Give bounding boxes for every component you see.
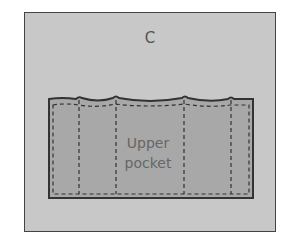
pocket-label: Upper pocket — [112, 133, 184, 173]
pocket-label-line1: Upper — [112, 133, 184, 153]
pocket-label-line2: pocket — [112, 153, 184, 173]
upper-pocket-shape — [0, 0, 291, 246]
